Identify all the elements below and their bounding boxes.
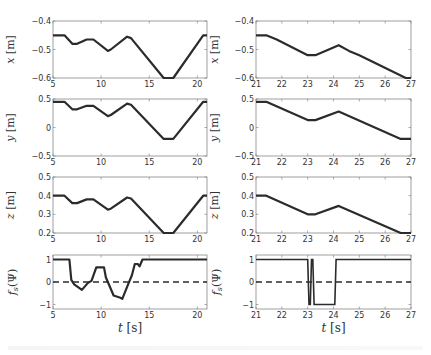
x-tick-label: 25 (354, 80, 364, 89)
y-tick-label: 0.2 (38, 229, 51, 238)
x-axis-label: t [s] (321, 321, 345, 335)
x-tick-label: 20 (192, 158, 202, 167)
y-tick-label: 0 (249, 124, 254, 133)
x-tick-label: 15 (144, 235, 154, 244)
cropped-caption (8, 346, 423, 350)
x-tick-label: 10 (96, 80, 106, 89)
x-tick-label: 23 (303, 235, 313, 244)
x-tick-label: 22 (277, 235, 287, 244)
x-tick-label: 24 (328, 235, 338, 244)
panel-right-x: 21222324252627−0.4−0.5−0.6x [m] (208, 17, 416, 89)
x-tick-label: 26 (380, 235, 390, 244)
panel-left-fs: 510152010−1fs(Ψ)t [s] (6, 255, 207, 335)
x-tick-label: 15 (144, 311, 154, 320)
y-axis-label: y [m] (208, 113, 221, 143)
y-tick-label: 0.3 (38, 210, 51, 219)
panel-right-fs: 2122232425262710−1fs(Ψ)t [s] (210, 255, 416, 335)
plot-frame (256, 177, 411, 233)
x-tick-label: 24 (328, 311, 338, 320)
y-tick-label: −1 (242, 301, 254, 310)
x-tick-label: 23 (303, 311, 313, 320)
panel-left-x: 5101520−0.4−0.5−0.6x [m] (4, 17, 207, 89)
x-tick-label: 10 (96, 235, 106, 244)
x-tick-label: 22 (277, 158, 287, 167)
y-tick-label: −0.6 (32, 74, 51, 83)
y-tick-label: −0.5 (235, 152, 254, 161)
x-tick-label: 5 (50, 235, 55, 244)
x-tick-label: 26 (380, 311, 390, 320)
y-tick-label: −0.5 (32, 46, 51, 55)
y-tick-label: 0.5 (38, 95, 51, 104)
y-tick-label: −0.5 (235, 46, 254, 55)
y-tick-label: −0.5 (32, 152, 51, 161)
y-tick-label: −0.4 (32, 17, 51, 26)
x-tick-label: 27 (406, 80, 416, 89)
y-tick-label: 0.5 (38, 173, 51, 182)
y-tick-label: 0.5 (241, 95, 254, 104)
y-axis-label: y [m] (4, 113, 17, 143)
y-tick-label: 1 (46, 256, 51, 265)
x-axis-label: t [s] (118, 321, 142, 335)
x-tick-label: 27 (406, 311, 416, 320)
y-tick-label: −0.4 (235, 17, 254, 26)
y-tick-label: −0.6 (235, 74, 254, 83)
y-tick-label: 0 (249, 278, 254, 287)
x-tick-label: 5 (50, 311, 55, 320)
x-tick-label: 15 (144, 158, 154, 167)
x-tick-label: 24 (328, 80, 338, 89)
y-axis-label: fs(Ψ) (210, 269, 224, 296)
x-tick-label: 27 (406, 235, 416, 244)
y-axis-label: x [m] (208, 35, 221, 64)
x-tick-label: 26 (380, 80, 390, 89)
y-tick-label: 0.4 (241, 192, 254, 201)
x-tick-label: 25 (354, 311, 364, 320)
y-tick-label: 0.2 (241, 229, 254, 238)
x-tick-label: 15 (144, 80, 154, 89)
y-tick-label: 0.4 (38, 192, 51, 201)
panel-left-z: 51015200.50.40.30.2z [m] (4, 173, 207, 244)
x-tick-label: 5 (50, 158, 55, 167)
y-tick-label: 0.5 (241, 173, 254, 182)
x-tick-label: 23 (303, 158, 313, 167)
plot-frame (53, 177, 207, 233)
x-tick-label: 25 (354, 158, 364, 167)
x-tick-label: 20 (192, 311, 202, 320)
figure: 5101520−0.4−0.5−0.6x [m]21222324252627−0… (0, 0, 431, 355)
panel-left-y: 51015200.50−0.5y [m] (4, 95, 207, 167)
plot-frame (53, 21, 207, 78)
x-tick-label: 24 (328, 158, 338, 167)
x-tick-label: 20 (192, 80, 202, 89)
x-tick-label: 23 (303, 80, 313, 89)
y-axis-label: x [m] (4, 35, 17, 64)
x-tick-label: 22 (277, 80, 287, 89)
x-tick-label: 27 (406, 158, 416, 167)
x-tick-label: 10 (96, 311, 106, 320)
y-axis-label: fs(Ψ) (6, 269, 20, 296)
x-tick-label: 20 (192, 235, 202, 244)
x-tick-label: 5 (50, 80, 55, 89)
panel-right-z: 212223242526270.50.40.30.2z [m] (208, 173, 416, 244)
y-tick-label: −1 (39, 301, 51, 310)
y-axis-label: z [m] (4, 191, 17, 220)
y-axis-label: z [m] (208, 191, 221, 220)
panel-right-y: 212223242526270.50−0.5y [m] (208, 95, 416, 167)
x-tick-label: 22 (277, 311, 287, 320)
x-tick-label: 25 (354, 235, 364, 244)
y-tick-label: 0.3 (241, 210, 254, 219)
x-tick-label: 10 (96, 158, 106, 167)
y-tick-label: 0 (46, 278, 51, 287)
y-tick-label: 1 (249, 256, 254, 265)
x-tick-label: 21 (251, 311, 261, 320)
y-tick-label: 0 (46, 124, 51, 133)
x-tick-label: 26 (380, 158, 390, 167)
